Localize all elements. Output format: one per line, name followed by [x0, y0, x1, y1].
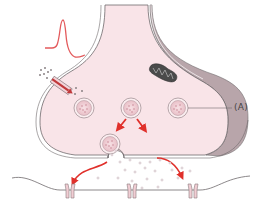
- vesicle: [74, 98, 94, 118]
- label-a: (A): [234, 102, 248, 112]
- vesicle: [121, 98, 141, 118]
- postsynaptic-receptors: [65, 184, 198, 198]
- ion-dots-outside: [39, 67, 52, 79]
- synapse-diagram: [0, 0, 264, 215]
- vesicle: [168, 98, 188, 118]
- presynaptic-terminal: [36, 5, 248, 158]
- receptor-icon: [65, 184, 75, 198]
- action-potential-icon: [45, 20, 85, 57]
- receptor-icon: [127, 184, 137, 198]
- receptor-icon: [188, 184, 198, 198]
- terminal-cytoplasm: [40, 5, 228, 155]
- diffusion-arrows: [73, 158, 182, 183]
